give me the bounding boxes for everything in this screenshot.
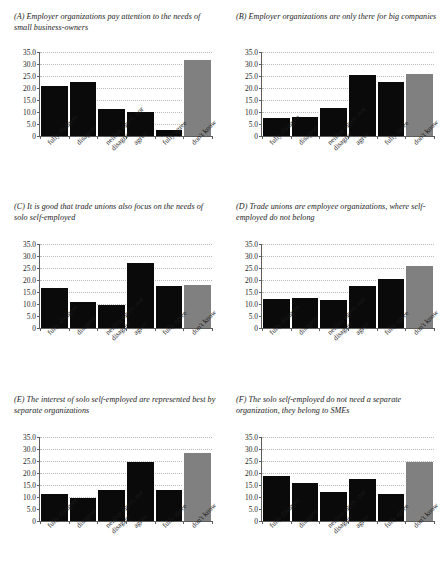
y-axis-tick-label: 20.0 xyxy=(23,84,36,93)
x-axis-tick xyxy=(405,328,406,331)
x-axis-tick xyxy=(348,328,349,331)
bar-fully-disagree xyxy=(40,288,69,328)
y-axis-tick-label: 35.0 xyxy=(245,48,258,57)
bar-fully-agree xyxy=(377,279,406,328)
bar-cell xyxy=(155,437,184,521)
y-axis-tick-label: 25.0 xyxy=(245,457,258,466)
x-axis-tick xyxy=(434,521,435,524)
bar-neither-agree-nor-disagree xyxy=(319,108,348,136)
y-axis-tick-label: 35.0 xyxy=(23,240,36,249)
bar-cell xyxy=(126,437,155,521)
x-axis-tick xyxy=(212,136,213,139)
x-axis-tick xyxy=(126,328,127,331)
bar-cell xyxy=(262,52,291,136)
y-axis-tick-label: 5.0 xyxy=(249,505,258,514)
bar-cell xyxy=(377,244,406,328)
chart-panel-a: (A) Employer organizations pay attention… xyxy=(0,0,222,190)
y-axis-tick-label: 30.0 xyxy=(23,60,36,69)
x-axis-tick xyxy=(262,521,263,524)
y-axis-tick-label: 10.0 xyxy=(245,493,258,502)
x-axis-tick xyxy=(183,328,184,331)
panel-title-d: (D) Trade unions are employee organizati… xyxy=(236,202,438,223)
bar-cell xyxy=(69,244,98,328)
x-axis-tick xyxy=(40,328,41,331)
bar-cell xyxy=(405,244,434,328)
bar-agree xyxy=(348,75,377,136)
bar-agree xyxy=(126,263,155,328)
y-axis-tick-label: 15.0 xyxy=(23,288,36,297)
y-axis-tick-label: 0 xyxy=(254,132,258,141)
bar-cell xyxy=(405,437,434,521)
bar-cell xyxy=(126,52,155,136)
bar-neither-agree-nor-disagree xyxy=(319,492,348,521)
y-axis-tick-label: 30.0 xyxy=(245,252,258,261)
bar-fully-disagree xyxy=(262,299,291,328)
x-axis-ticks xyxy=(262,136,434,139)
y-axis-tick-label: 35.0 xyxy=(23,433,36,442)
bar-cell xyxy=(155,52,184,136)
y-axis-tick-label: 15.0 xyxy=(245,288,258,297)
panel-title-e: (E) The interest of solo self-employed a… xyxy=(14,395,216,416)
x-axis-tick xyxy=(434,136,435,139)
x-axis-tick xyxy=(126,136,127,139)
bar-series xyxy=(262,244,434,328)
y-axis-tick-label: 5.0 xyxy=(249,120,258,129)
bar-disagree xyxy=(69,82,98,136)
bar-cell xyxy=(319,244,348,328)
y-axis-tick-label: 0 xyxy=(254,324,258,333)
bar-fully-disagree xyxy=(262,118,291,136)
bar-cell xyxy=(40,244,69,328)
bar-cell xyxy=(97,52,126,136)
panel-title-a: (A) Employer organizations pay attention… xyxy=(14,12,216,33)
bar-fully-agree xyxy=(377,82,406,136)
bar-don-t-know xyxy=(405,266,434,328)
bar-cell xyxy=(405,52,434,136)
y-axis-tick-label: 15.0 xyxy=(23,96,36,105)
x-axis-tick xyxy=(155,328,156,331)
y-axis-tick-label: 20.0 xyxy=(23,469,36,478)
y-axis-tick-label: 25.0 xyxy=(23,457,36,466)
bar-cell xyxy=(69,52,98,136)
x-axis-ticks xyxy=(40,136,212,139)
bar-disagree xyxy=(291,117,320,136)
plot-area-f: 05.010.015.020.025.030.035.0 xyxy=(262,437,434,521)
y-axis-tick-label: 20.0 xyxy=(23,276,36,285)
x-axis-tick xyxy=(319,136,320,139)
y-axis-tick-label: 0 xyxy=(32,132,36,141)
x-axis-ticks xyxy=(262,328,434,331)
x-axis-tick xyxy=(262,136,263,139)
bar-series xyxy=(262,437,434,521)
y-axis-tick-label: 35.0 xyxy=(23,48,36,57)
y-axis-tick-label: 10.0 xyxy=(245,108,258,117)
bar-cell xyxy=(183,437,212,521)
bar-cell xyxy=(40,437,69,521)
bar-cell xyxy=(40,52,69,136)
bar-fully-disagree xyxy=(40,86,69,136)
bar-agree xyxy=(348,286,377,328)
bar-cell xyxy=(69,437,98,521)
chart-panel-e: (E) The interest of solo self-employed a… xyxy=(0,383,222,578)
y-axis-tick-label: 25.0 xyxy=(23,264,36,273)
bar-agree xyxy=(126,112,155,136)
bar-cell xyxy=(377,437,406,521)
y-axis-tick-label: 30.0 xyxy=(23,252,36,261)
bar-disagree xyxy=(69,302,98,328)
x-axis-tick xyxy=(40,136,41,139)
bar-fully-agree xyxy=(155,490,184,521)
plot-area-a: 05.010.015.020.025.030.035.0 xyxy=(40,52,212,136)
bar-neither-agree-nor-disagree xyxy=(319,300,348,328)
bar-cell xyxy=(291,52,320,136)
bar-agree xyxy=(348,479,377,521)
bar-disagree xyxy=(291,298,320,328)
x-axis-tick xyxy=(183,136,184,139)
x-axis-tick xyxy=(291,521,292,524)
chart-panel-b: (B) Employer organizations are only ther… xyxy=(222,0,444,190)
y-axis-tick-label: 25.0 xyxy=(23,72,36,81)
bar-neither-agree-nor-disagree xyxy=(97,490,126,521)
bar-don-t-know xyxy=(405,74,434,136)
x-axis-tick xyxy=(405,521,406,524)
x-axis-tick xyxy=(262,328,263,331)
figure-panel-grid: (A) Employer organizations pay attention… xyxy=(0,0,444,578)
x-axis-tick xyxy=(97,521,98,524)
y-axis-tick-label: 30.0 xyxy=(23,445,36,454)
